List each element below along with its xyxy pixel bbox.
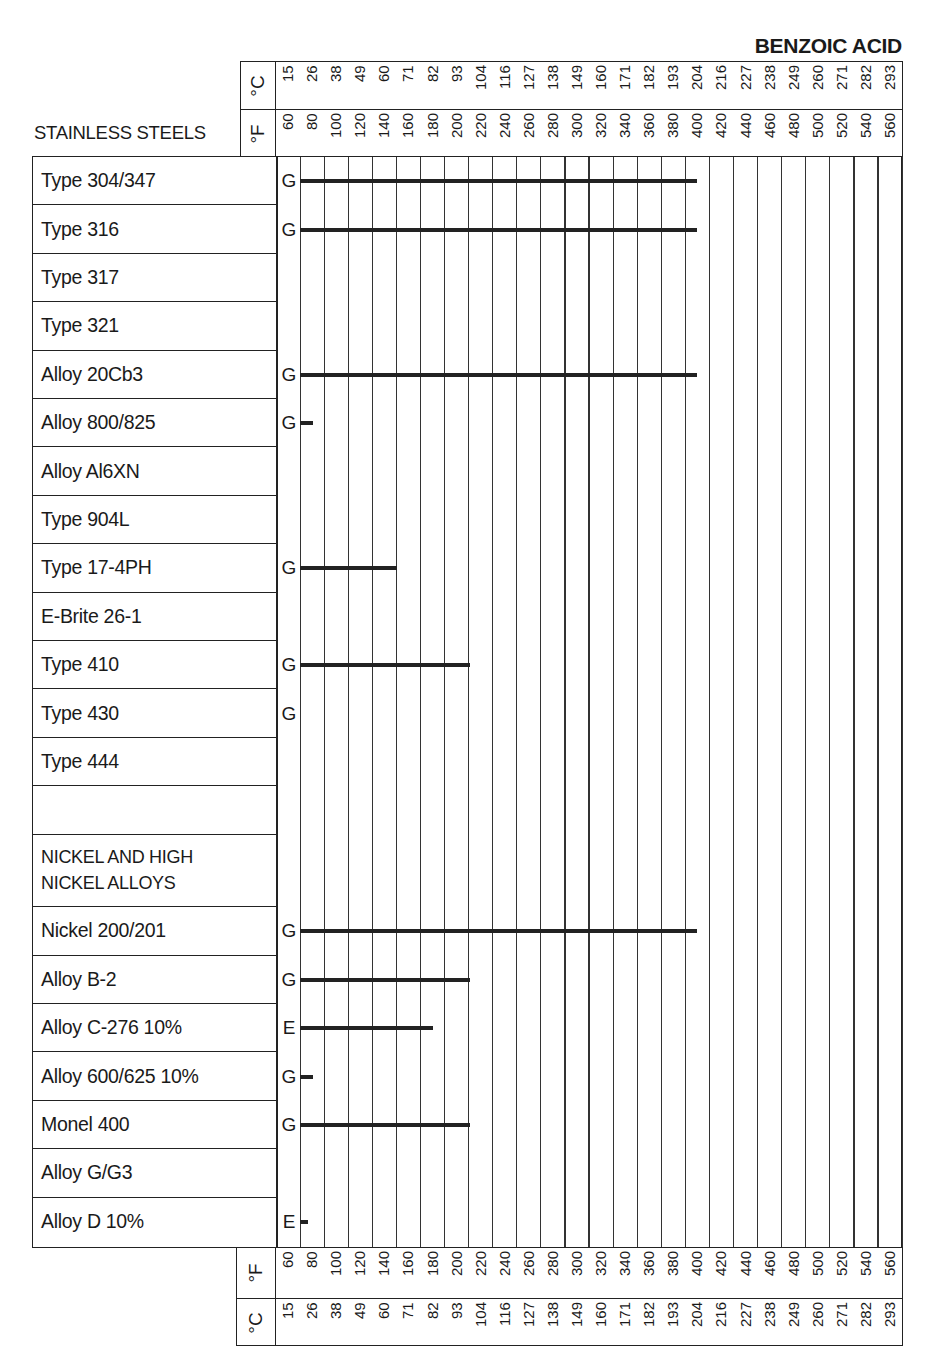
- axis-tick: 460: [758, 1248, 782, 1298]
- rating-letter: G: [279, 654, 299, 676]
- axis-tick: 360: [637, 110, 661, 157]
- material-row: Alloy C-276 10%: [33, 1004, 277, 1052]
- axis-tick: 560: [878, 110, 902, 157]
- axis-tick: 160: [396, 1248, 420, 1298]
- axis-tick: 420: [709, 1248, 733, 1298]
- axis-tick: 293: [878, 62, 902, 109]
- rating-letter: G: [279, 969, 299, 991]
- temperature-range-bar: [300, 1026, 433, 1030]
- axis-tick: 440: [734, 110, 758, 157]
- material-label: Alloy C-276 10%: [41, 1016, 182, 1039]
- axis-tick: 260: [517, 110, 541, 157]
- axis-tick: 127: [517, 62, 541, 109]
- grid-line: [709, 157, 710, 1247]
- axis-tick: 193: [661, 62, 685, 109]
- axis-tick: 260: [806, 62, 830, 109]
- axis-tick: 204: [685, 1299, 709, 1346]
- axis-tick: 340: [613, 110, 637, 157]
- material-row: E-Brite 26-1: [33, 593, 277, 641]
- axis-tick: 116: [493, 1299, 517, 1346]
- axis-tick: 271: [830, 1299, 854, 1346]
- axis-tick: 182: [637, 62, 661, 109]
- axis-tick: 71: [396, 1299, 420, 1346]
- material-row: Type 410: [33, 641, 277, 689]
- axis-tick: 38: [324, 62, 348, 109]
- grid-line: [829, 157, 830, 1247]
- temperature-range-bar: [300, 929, 697, 933]
- axis-tick: 120: [348, 110, 372, 157]
- axis-tick: 480: [782, 1248, 806, 1298]
- axis-tick: 15: [276, 1299, 300, 1346]
- material-label: Alloy D 10%: [41, 1210, 144, 1233]
- material-row: Alloy G/G3: [33, 1149, 277, 1197]
- axis-tick: 140: [372, 1248, 396, 1298]
- material-label: Alloy B-2: [41, 968, 116, 991]
- axis-tick: 120: [348, 1248, 372, 1298]
- material-row: Type 316: [33, 205, 277, 253]
- material-row: Type 904L: [33, 496, 277, 544]
- axis-tick: 500: [806, 1248, 830, 1298]
- temperature-range-bar: [300, 566, 397, 570]
- material-label: Type 410: [41, 653, 119, 676]
- grid-line: [420, 157, 421, 1247]
- axis-tick: 540: [854, 110, 878, 157]
- bottom-temperature-axis: °F 6080100120140160180200220240260280300…: [236, 1247, 903, 1346]
- grid-line: [805, 157, 806, 1247]
- axis-tick: 216: [709, 62, 733, 109]
- temperature-range-bar: [300, 421, 313, 425]
- axis-tick: 460: [758, 110, 782, 157]
- material-label: Type 304/347: [41, 169, 156, 192]
- axis-tick: 293: [878, 1299, 902, 1346]
- material-label: Type 444: [41, 750, 119, 773]
- grid-line: [613, 157, 614, 1247]
- axis-tick: 300: [565, 1248, 589, 1298]
- material-row: Monel 400: [33, 1101, 277, 1149]
- material-row: Type 430: [33, 689, 277, 737]
- axis-tick: 282: [854, 1299, 878, 1346]
- axis-tick: 420: [709, 110, 733, 157]
- grid-line: [300, 157, 301, 1247]
- grid-line: [372, 157, 373, 1247]
- axis-tick: 171: [613, 62, 637, 109]
- grid-line: [468, 157, 469, 1247]
- axis-tick: 15: [276, 62, 300, 109]
- material-row: Type 444: [33, 738, 277, 786]
- axis-tick: 320: [589, 110, 613, 157]
- material-label: Alloy Al6XN: [41, 460, 140, 483]
- material-row: Alloy 800/825: [33, 399, 277, 447]
- material-row: Type 317: [33, 254, 277, 302]
- axis-tick: 204: [685, 62, 709, 109]
- rating-letter: G: [279, 364, 299, 386]
- axis-tick: 200: [445, 110, 469, 157]
- axis-tick: 160: [589, 62, 613, 109]
- axis-tick: 180: [420, 110, 444, 157]
- grid-line: [781, 157, 782, 1247]
- compatibility-table: Type 304/347GType 316GType 317Type 321Al…: [32, 156, 902, 1248]
- axis-tick: 440: [734, 1248, 758, 1298]
- axis-tick: 138: [541, 1299, 565, 1346]
- material-row: Type 304/347: [33, 157, 277, 205]
- material-label: Type 17-4PH: [41, 556, 152, 579]
- top-temperature-axis: °C 1526384960718293104116127138149160171…: [240, 61, 903, 157]
- axis-tick: 26: [300, 62, 324, 109]
- axis-tick: 140: [372, 110, 396, 157]
- material-label: Type 904L: [41, 508, 129, 531]
- axis-tick: 280: [541, 1248, 565, 1298]
- celsius-unit: °C: [237, 1299, 276, 1346]
- axis-tick: 260: [517, 1248, 541, 1298]
- axis-tick: 171: [613, 1299, 637, 1346]
- material-row: Nickel 200/201: [33, 907, 277, 955]
- grid-line: [902, 157, 903, 1247]
- temperature-range-bar: [300, 663, 470, 667]
- rating-letter: G: [279, 1114, 299, 1136]
- grid-line: [637, 157, 638, 1247]
- material-row: Alloy 20Cb3: [33, 351, 277, 399]
- rating-letter: G: [279, 170, 299, 192]
- celsius-axis-row-bottom: °C 1526384960718293104116127138149160171…: [237, 1299, 902, 1346]
- material-label: E-Brite 26-1: [41, 605, 141, 628]
- grid-line: [733, 157, 734, 1247]
- material-label: Nickel 200/201: [41, 919, 166, 942]
- axis-tick: 160: [396, 110, 420, 157]
- material-row: Alloy D 10%: [33, 1198, 277, 1246]
- rating-letter: G: [279, 412, 299, 434]
